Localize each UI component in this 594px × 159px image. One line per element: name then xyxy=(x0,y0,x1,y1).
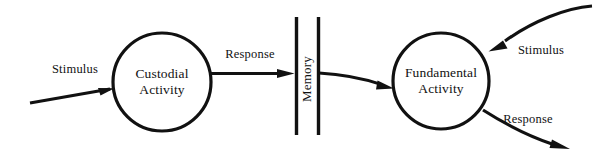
fundamental-activity-label-line1: Fundamental xyxy=(405,65,477,80)
response-out-right-label: Response xyxy=(503,112,553,126)
custodial-activity-label-line2: Activity xyxy=(139,82,185,97)
stimulus-in-right-arrowhead xyxy=(489,41,508,52)
response-to-memory-label: Response xyxy=(225,47,275,61)
data-flow-diagram: Stimulus Custodial Activity Response Mem… xyxy=(0,0,594,159)
stimulus-in-left-label: Stimulus xyxy=(52,62,98,76)
stimulus-in-right-label: Stimulus xyxy=(518,43,564,57)
flow-stimulus-in-right: Stimulus xyxy=(489,6,593,57)
custodial-activity-label-line1: Custodial xyxy=(135,66,188,81)
data-store-memory[interactable]: Memory xyxy=(297,17,319,135)
diagram-canvas: Stimulus Custodial Activity Response Mem… xyxy=(0,0,594,159)
process-custodial-activity[interactable]: Custodial Activity xyxy=(113,33,211,131)
response-out-right-arrowhead xyxy=(550,140,571,150)
memory-to-fundamental-arrowhead xyxy=(376,81,394,90)
response-to-memory-arrowhead xyxy=(277,69,295,78)
fundamental-activity-label-line2: Activity xyxy=(418,81,464,96)
process-fundamental-activity[interactable]: Fundamental Activity xyxy=(393,33,489,129)
flow-response-to-memory: Response xyxy=(211,47,295,78)
stimulus-in-right-line xyxy=(505,6,592,41)
memory-label: Memory xyxy=(299,56,314,102)
flow-response-out-right: Response xyxy=(483,110,570,149)
flow-stimulus-in-left: Stimulus xyxy=(30,62,115,103)
memory-to-fundamental-line xyxy=(319,73,381,84)
stimulus-in-left-line xyxy=(30,89,110,103)
flow-memory-to-fundamental xyxy=(319,73,394,89)
